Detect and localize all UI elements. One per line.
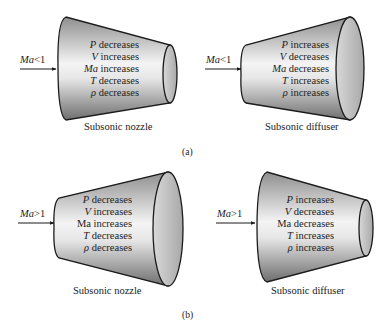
property-line: T decreases: [90, 75, 139, 86]
subsonic-nozzle-a: Ma<1 P decreases V increases Ma increase…: [19, 17, 177, 132]
nozzle-diffuser-figure: Ma<1 P decreases V increases Ma increase…: [0, 0, 381, 328]
property-line: P decreases: [89, 39, 139, 50]
property-line: P increases: [285, 194, 334, 205]
property-line: ρ increases: [282, 87, 329, 98]
property-line: T decreases: [83, 230, 132, 241]
panel-label: (b): [182, 310, 193, 321]
property-line: Ma increases: [83, 63, 139, 74]
diagram-caption: Subsonic diffuser: [271, 285, 345, 296]
nozzle-b: Ma>1 P decreases V increases Ma increase…: [18, 172, 183, 296]
inlet-mach-condition: Ma>1: [19, 208, 45, 219]
property-line: V decreases: [280, 51, 329, 62]
inlet-mach-condition: Ma<1: [19, 54, 45, 65]
panel-b: Ma>1 P decreases V increases Ma increase…: [18, 172, 373, 321]
property-line: V increases: [91, 51, 139, 62]
property-line: ρ decreases: [90, 87, 139, 98]
property-line: P decreases: [82, 194, 132, 205]
property-line: P increases: [280, 39, 329, 50]
diffuser-b: Ma>1 P increases V decreases Ma decrease…: [216, 172, 373, 296]
diagram-caption: Subsonic nozzle: [73, 285, 142, 296]
inlet-mach-condition: Ma<1: [205, 54, 231, 65]
subsonic-diffuser-a: Ma<1 P increases V decreases Ma decrease…: [205, 17, 364, 132]
property-line: V decreases: [285, 206, 334, 217]
panel-label: (a): [182, 147, 193, 158]
diffuser-outlet: [336, 17, 364, 120]
property-line: T increases: [282, 75, 329, 86]
inlet-mach-condition: Ma>1: [216, 208, 242, 219]
property-line: V increases: [84, 206, 132, 217]
property-line: ρ increases: [287, 242, 334, 253]
nozzle-outlet: [163, 45, 177, 103]
property-line: Ma decreases: [277, 218, 334, 229]
property-line: ρ decreases: [83, 242, 132, 253]
nozzle-body: [54, 172, 168, 286]
panel-a: Ma<1 P decreases V increases Ma increase…: [19, 17, 364, 158]
diagram-caption: Subsonic nozzle: [84, 121, 153, 132]
property-line: T increases: [287, 230, 334, 241]
nozzle-outlet: [153, 172, 183, 286]
property-line: Ma increases: [77, 218, 132, 229]
diffuser-outlet: [359, 200, 373, 256]
diagram-caption: Subsonic diffuser: [265, 121, 339, 132]
property-line: Ma decreases: [271, 63, 329, 74]
